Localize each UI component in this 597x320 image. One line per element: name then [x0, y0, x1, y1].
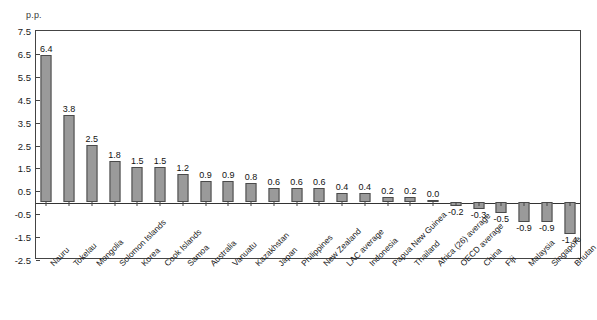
bar[interactable] — [86, 145, 97, 202]
x-axis-tick-mark — [114, 202, 115, 206]
y-axis-tick-label: -2.5 — [15, 255, 31, 266]
x-axis-tick-mark — [205, 202, 206, 206]
bar-value-label: 0.2 — [381, 186, 394, 196]
x-axis-category-labels: NauruTokelauMongoliaSolomon IslandsKorea… — [35, 261, 581, 320]
bar-group[interactable]: 1.5 — [126, 30, 149, 259]
x-axis-tick-mark — [296, 202, 297, 206]
bar-group[interactable]: -0.2 — [445, 30, 468, 259]
bar-value-label: 2.5 — [86, 134, 99, 144]
y-axis-tick-label: -1.5 — [15, 232, 31, 243]
bar-value-label: 0.4 — [336, 182, 349, 192]
bar-value-label: 0.9 — [199, 170, 212, 180]
bar-group[interactable]: -1.4 — [558, 30, 581, 259]
bar-value-label: 3.8 — [63, 104, 76, 114]
x-axis-tick-mark — [182, 202, 183, 206]
x-axis-tick-mark — [524, 202, 525, 206]
bar[interactable] — [314, 188, 325, 202]
bar-value-label: 0.9 — [222, 170, 235, 180]
bar-group[interactable]: 0.4 — [331, 30, 354, 259]
x-axis-tick-mark — [433, 202, 434, 206]
bar-chart: p.p. 7.56.55.54.53.52.51.50.5-0.5-1.5-2.… — [0, 0, 597, 320]
bar-group[interactable]: 0.8 — [240, 30, 263, 259]
x-axis-tick-mark — [251, 202, 252, 206]
bar-value-label: 1.8 — [108, 150, 121, 160]
x-axis-tick-mark — [46, 202, 47, 206]
bar-group[interactable]: 0.2 — [376, 30, 399, 259]
x-axis-tick-mark — [387, 202, 388, 206]
y-axis-tick-label: 3.5 — [18, 117, 31, 128]
bar-value-label: 6.4 — [40, 44, 53, 54]
bar[interactable] — [291, 188, 302, 202]
y-axis-tick-label: 0.5 — [18, 186, 31, 197]
y-axis-tick-label: 2.5 — [18, 140, 31, 151]
y-axis-tick-label: 5.5 — [18, 71, 31, 82]
x-axis-tick-mark — [342, 202, 343, 206]
bar-value-label: 1.5 — [154, 156, 167, 166]
bar-group[interactable]: 0.6 — [263, 30, 286, 259]
y-axis-tick-label: 4.5 — [18, 94, 31, 105]
bar[interactable] — [200, 181, 211, 202]
bar-value-label: 0.4 — [359, 182, 372, 192]
x-axis-tick-mark — [319, 202, 320, 206]
bar[interactable] — [41, 55, 52, 202]
bar-value-label: 0.6 — [290, 177, 303, 187]
bar-group[interactable]: 0.9 — [217, 30, 240, 259]
y-axis-tick-label: 1.5 — [18, 163, 31, 174]
bar-group[interactable]: -0.9 — [536, 30, 559, 259]
x-axis-tick-mark — [160, 202, 161, 206]
bar[interactable] — [64, 115, 75, 202]
bar-value-label: 1.2 — [177, 163, 190, 173]
bar[interactable] — [564, 202, 575, 234]
x-axis-tick-mark — [410, 202, 411, 206]
bar-value-label: 0.2 — [404, 186, 417, 196]
bar-group[interactable]: 0.6 — [308, 30, 331, 259]
bar[interactable] — [155, 167, 166, 201]
bar[interactable] — [337, 193, 348, 202]
bar-group[interactable]: 1.8 — [103, 30, 126, 259]
x-axis-tick-mark — [569, 202, 570, 206]
bar-value-label: -0.9 — [539, 223, 555, 233]
x-axis-tick-mark — [228, 202, 229, 206]
bar-value-label: 0.6 — [313, 177, 326, 187]
bar-value-label: -0.9 — [516, 223, 532, 233]
bar-value-label: 0.6 — [268, 177, 281, 187]
x-axis-tick-mark — [546, 202, 547, 206]
bar-group[interactable]: -0.9 — [513, 30, 536, 259]
bar-group[interactable]: 1.2 — [172, 30, 195, 259]
bar-value-label: 0.0 — [427, 189, 440, 199]
bar[interactable] — [246, 183, 257, 201]
x-axis-tick-mark — [273, 202, 274, 206]
bar[interactable] — [177, 174, 188, 201]
bar[interactable] — [268, 188, 279, 202]
bar-value-label: -0.2 — [448, 207, 464, 217]
x-axis-tick-mark — [137, 202, 138, 206]
bar-group[interactable]: 0.2 — [399, 30, 422, 259]
x-axis-tick-mark — [364, 202, 365, 206]
x-axis-tick-mark — [91, 202, 92, 206]
y-axis-tick-label: -0.5 — [15, 209, 31, 220]
y-axis-tick-label: 7.5 — [18, 26, 31, 37]
bar[interactable] — [359, 193, 370, 202]
bar-value-label: 0.8 — [245, 172, 258, 182]
x-axis-tick-mark — [455, 202, 456, 206]
x-axis-tick-mark — [501, 202, 502, 206]
bar[interactable] — [109, 161, 120, 202]
bar-group[interactable]: 2.5 — [81, 30, 104, 259]
bar-group[interactable]: 3.8 — [58, 30, 81, 259]
bar[interactable] — [223, 181, 234, 202]
bar-group[interactable]: 0.9 — [194, 30, 217, 259]
bar-group[interactable]: 0.4 — [354, 30, 377, 259]
chart-title-cropped — [28, 0, 188, 7]
bar[interactable] — [132, 167, 143, 201]
x-axis-tick-mark — [69, 202, 70, 206]
y-axis-tick-label: 6.5 — [18, 48, 31, 59]
bar-group[interactable]: 0.6 — [285, 30, 308, 259]
bar-group[interactable]: 6.4 — [35, 30, 58, 259]
bar-value-label: 1.5 — [131, 156, 144, 166]
y-axis-unit-label: p.p. — [26, 10, 42, 20]
x-axis-tick-mark — [478, 202, 479, 206]
